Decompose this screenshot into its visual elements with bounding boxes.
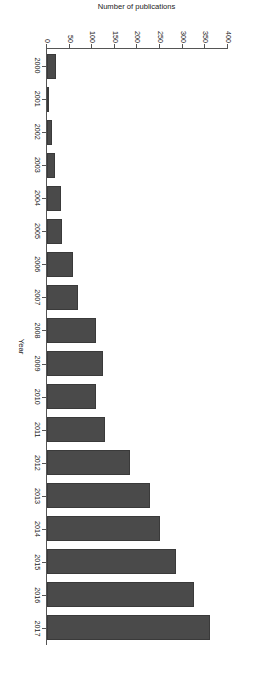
y-axis-tick	[69, 44, 70, 49]
bar	[47, 87, 49, 111]
x-axis-title: Year	[17, 48, 26, 645]
bar	[47, 615, 210, 639]
x-axis-tick-label: 2015	[34, 554, 41, 570]
bar-slot	[47, 347, 228, 380]
y-axis-tick	[159, 44, 160, 49]
y-axis-title-label: Number of publications	[98, 3, 176, 12]
x-axis-tick-label: 2001	[34, 91, 41, 107]
x-axis-tick-label: 2013	[34, 488, 41, 504]
bar	[47, 54, 56, 78]
y-axis-tick	[137, 44, 138, 49]
plot-area: 050100150200250300350400 200020012002200…	[46, 48, 228, 645]
bar-slot	[47, 578, 228, 611]
x-axis-tick	[42, 463, 47, 464]
y-axis-tick-label: 50	[66, 35, 73, 43]
bar	[47, 252, 73, 276]
x-axis-tick-label: 2006	[34, 256, 41, 272]
y-axis-tick-label: 300	[179, 31, 186, 43]
y-axis-tick	[227, 44, 228, 49]
x-axis-tick	[42, 529, 47, 530]
x-axis-tick-label: 2016	[34, 587, 41, 603]
x-axis-tick-label: 2000	[34, 58, 41, 74]
bar-slot	[47, 413, 228, 446]
x-axis-tick-label: 2002	[34, 124, 41, 140]
bar-slot	[47, 50, 228, 83]
y-axis-tick	[46, 44, 47, 49]
x-axis-tick	[42, 198, 47, 199]
bar-slot	[47, 248, 228, 281]
x-axis-tick-label: 2008	[34, 322, 41, 338]
bar	[47, 120, 52, 144]
bar-series	[47, 49, 228, 645]
bar-slot	[47, 281, 228, 314]
bar-slot	[47, 479, 228, 512]
bar	[47, 384, 96, 408]
x-axis-tick	[42, 364, 47, 365]
y-axis-tick-label: 400	[224, 31, 231, 43]
bar	[47, 516, 160, 540]
bar	[47, 417, 105, 441]
x-axis-tick	[42, 496, 47, 497]
bar	[47, 186, 61, 210]
bar	[47, 285, 78, 309]
y-axis-tick	[182, 44, 183, 49]
y-axis-tick	[204, 44, 205, 49]
x-axis-tick-label: 2009	[34, 356, 41, 372]
x-axis-tick-label: 2004	[34, 190, 41, 206]
y-axis-tick-label: 100	[89, 31, 96, 43]
bar	[47, 549, 176, 573]
x-axis-tick-label: 2012	[34, 455, 41, 471]
y-axis-title: Number of publications	[46, 0, 228, 14]
bar	[47, 483, 150, 507]
bar-slot	[47, 545, 228, 578]
y-axis-tick	[114, 44, 115, 49]
x-axis-tick	[42, 66, 47, 67]
bar-slot	[47, 446, 228, 479]
x-axis-tick-label: 2010	[34, 389, 41, 405]
x-axis-tick	[42, 430, 47, 431]
y-axis-tick-label: 150	[111, 31, 118, 43]
x-axis-tick	[42, 231, 47, 232]
y-axis-tick-label: 250	[157, 31, 164, 43]
bar	[47, 219, 62, 243]
x-axis-tick	[42, 628, 47, 629]
bar	[47, 153, 55, 177]
x-axis-tick	[42, 330, 47, 331]
bar-slot	[47, 380, 228, 413]
x-axis-tick-label: 2007	[34, 289, 41, 305]
y-axis-tick	[91, 44, 92, 49]
x-axis-tick	[42, 132, 47, 133]
bar-chart-figure: Number of publications 05010015020025030…	[0, 0, 258, 698]
y-axis-tick-label: 350	[202, 31, 209, 43]
x-axis-tick	[42, 297, 47, 298]
y-axis-tick-label: 0	[43, 39, 50, 43]
x-axis-tick	[42, 562, 47, 563]
y-axis-tick-label: 200	[134, 31, 141, 43]
bar-slot	[47, 149, 228, 182]
x-axis-tick-label: 2011	[34, 422, 41, 437]
x-axis-tick	[42, 595, 47, 596]
x-axis-tick-label: 2017	[34, 620, 41, 636]
rotated-page-wrapper: Number of publications 05010015020025030…	[0, 0, 258, 698]
x-axis-tick-label: 2014	[34, 521, 41, 537]
x-axis-tick	[42, 264, 47, 265]
bar-slot	[47, 83, 228, 116]
bar-slot	[47, 611, 228, 644]
x-axis-tick-label: 2003	[34, 157, 41, 173]
x-axis-tick-label: 2005	[34, 223, 41, 239]
x-axis-tick	[42, 99, 47, 100]
x-axis-tick	[42, 165, 47, 166]
bar-slot	[47, 182, 228, 215]
bar	[47, 351, 103, 375]
bar	[47, 582, 194, 606]
bar-slot	[47, 314, 228, 347]
bar-slot	[47, 215, 228, 248]
x-axis-tick	[42, 397, 47, 398]
bar-slot	[47, 512, 228, 545]
bar	[47, 450, 130, 474]
bar-slot	[47, 116, 228, 149]
bar	[47, 318, 96, 342]
